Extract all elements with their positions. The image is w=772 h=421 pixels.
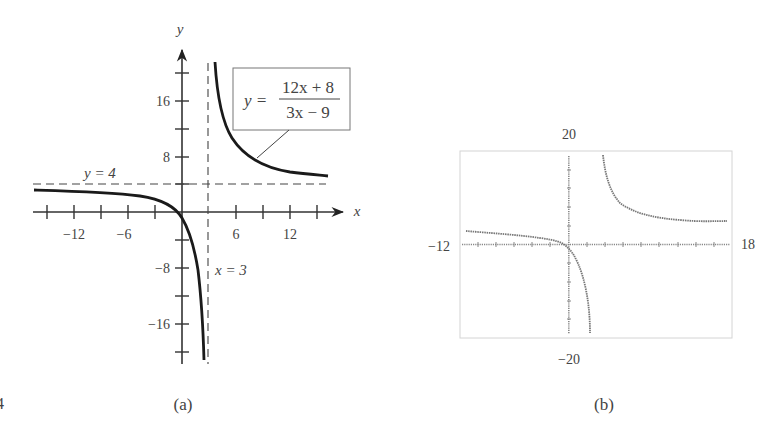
figure-number-fragment: 4 — [0, 395, 4, 412]
window-ymin-label: −20 — [558, 352, 580, 367]
caption-b: (b) — [594, 395, 614, 414]
window-xmax-label: 18 — [741, 237, 755, 252]
caption-a: (a) — [174, 395, 193, 414]
x-tick-label: −12 — [63, 227, 85, 242]
y-tick-label: 8 — [163, 150, 170, 165]
figure: 4 — [0, 0, 772, 421]
equation-lhs: y = — [242, 91, 267, 110]
horizontal-asymptote-label: y = 4 — [82, 165, 116, 181]
equation-denominator: 3x − 9 — [286, 103, 330, 122]
x-tick-label: 6 — [233, 227, 240, 242]
x-tick-label: 12 — [283, 227, 297, 242]
window-xmin-label: −12 — [428, 239, 450, 254]
x-tick-label: −6 — [117, 227, 132, 242]
curve-left-branch — [34, 190, 204, 360]
vertical-asymptote-label: x = 3 — [214, 262, 247, 278]
equation-numerator: 12x + 8 — [282, 78, 334, 97]
equation-pointer-line — [257, 130, 289, 158]
equation-box: y = 12x + 8 3x − 9 — [233, 68, 350, 158]
y-tick-label: −8 — [155, 261, 170, 276]
y-tick-label: 16 — [156, 94, 170, 109]
panel-b: 20 −20 −12 18 (b) — [428, 127, 755, 414]
y-axis-label: y — [175, 21, 184, 37]
y-tick-label: −16 — [148, 317, 170, 332]
window-ymax-label: 20 — [562, 127, 576, 142]
x-axis-label: x — [353, 203, 361, 219]
panel-a: y x −12 −6 6 12 16 8 −8 −16 y = 4 x = 3 … — [33, 21, 361, 414]
